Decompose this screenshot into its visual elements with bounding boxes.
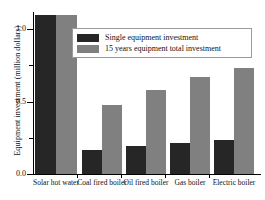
bar-single-electric-boiler xyxy=(214,140,234,174)
y-tick-minor-1 xyxy=(29,65,33,66)
legend-item-15-years-total-investment: 15 years equipment total investment xyxy=(77,43,247,54)
legend-label-total: 15 years equipment total investment xyxy=(105,44,221,53)
y-tick-minor-0 xyxy=(29,138,33,139)
x-axis-line xyxy=(33,174,261,175)
y-axis-line xyxy=(33,12,34,175)
bar-total-oil-fired-boiler xyxy=(146,90,166,174)
y-tick-major-0 xyxy=(27,174,33,175)
y-tick-major-1 xyxy=(27,102,33,103)
bar-single-oil-fired-boiler xyxy=(126,146,146,174)
bar-single-coal-fired-boiler xyxy=(82,150,102,174)
bar-chart-figure: Equipment investment (million dollars) 0… xyxy=(0,0,265,200)
y-tick-major-2 xyxy=(27,29,33,30)
y-tick-label-2: 1.0 xyxy=(0,24,26,33)
bar-total-coal-fired-boiler xyxy=(102,105,122,174)
y-tick-label-0: 0.0 xyxy=(0,169,26,178)
y-axis-title: Equipment investment (million dollars) xyxy=(13,11,22,171)
x-axis-label-electric-boiler: Electric boiler xyxy=(199,178,265,187)
legend-swatch-total-icon xyxy=(77,45,99,53)
legend-swatch-single-icon xyxy=(77,34,99,42)
bar-single-gas-boiler xyxy=(170,143,190,174)
y-tick-label-1: 0.5 xyxy=(0,97,26,106)
bar-total-gas-boiler xyxy=(190,77,210,174)
legend-item-single-equipment-investment: Single equipment investment xyxy=(77,32,247,43)
chart-legend: Single equipment investment 15 years equ… xyxy=(72,28,252,58)
bar-single-solar-hot-water xyxy=(35,15,56,174)
legend-label-single: Single equipment investment xyxy=(105,33,198,42)
bar-total-electric-boiler xyxy=(234,68,254,174)
